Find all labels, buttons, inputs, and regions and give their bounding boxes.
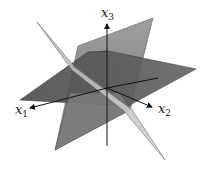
x2-label: x2	[158, 101, 171, 118]
x3-label: x3	[101, 5, 114, 22]
three-planes-diagram: x3 x1 x2	[0, 0, 210, 174]
x1-label: x1	[15, 102, 28, 119]
